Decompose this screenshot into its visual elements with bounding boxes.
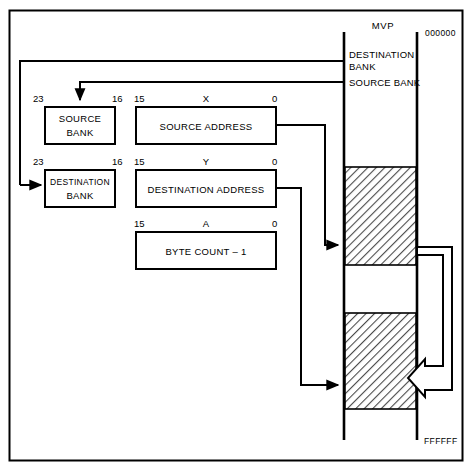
- source-bank-memory-label: SOURCE BANK: [349, 77, 421, 88]
- byte-count-register-name: A: [203, 218, 210, 229]
- source-address-register-name: X: [203, 93, 210, 104]
- destination-address-label: DESTINATION ADDRESS: [148, 184, 265, 195]
- end-address-label: FFFFFF: [424, 436, 458, 446]
- destination-block: [345, 313, 416, 409]
- source-address-bit-low: 0: [272, 93, 277, 104]
- destination-bank-label-line2: BANK: [66, 190, 93, 201]
- mvp-block-move-diagram: MVP 000000 FFFFFF DESTINATION BANK SOURC…: [0, 0, 473, 475]
- destination-bank-box[interactable]: [45, 170, 115, 207]
- destination-bank-bit-low: 16: [112, 156, 123, 167]
- source-address-label: SOURCE ADDRESS: [160, 121, 253, 132]
- byte-count-bit-high: 15: [134, 218, 145, 229]
- source-bank-label-line2: BANK: [66, 127, 93, 138]
- byte-count-label: BYTE COUNT – 1: [165, 246, 246, 257]
- source-address-bit-high: 15: [134, 93, 145, 104]
- figure-canvas: MVP 000000 FFFFFF DESTINATION BANK SOURC…: [0, 0, 473, 475]
- source-bank-label-line1: SOURCE: [59, 113, 101, 124]
- source-bank-bit-low: 16: [112, 93, 123, 104]
- mvp-label: MVP: [372, 20, 394, 31]
- destination-address-bit-high: 15: [134, 156, 145, 167]
- byte-count-bit-low: 0: [272, 218, 277, 229]
- source-block: [345, 167, 416, 265]
- destination-bank-label-line1: DESTINATION: [50, 177, 110, 187]
- destination-bank-memory-label-line2: BANK: [349, 61, 376, 72]
- start-address-label: 000000: [425, 28, 456, 38]
- destination-address-bit-low: 0: [272, 156, 277, 167]
- source-bank-bit-high: 23: [33, 93, 44, 104]
- destination-address-register-name: Y: [203, 156, 210, 167]
- destination-bank-bit-high: 23: [33, 156, 44, 167]
- destination-bank-memory-label-line1: DESTINATION: [349, 49, 414, 60]
